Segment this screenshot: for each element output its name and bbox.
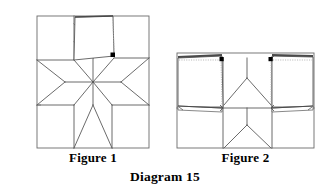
- fig2-pivot-dot-top-left: [220, 57, 224, 61]
- fig2-flap-top-left-face: [178, 56, 223, 107]
- fig2-lower-chevron-left: [224, 125, 247, 148]
- fig2-lower-chevron-right: [247, 125, 271, 148]
- fig2-pivot-dot-top-right: [269, 57, 273, 61]
- fig2-flap-top-right-crease: [272, 55, 313, 56]
- fig2-upper-chevron-left: [224, 78, 247, 105]
- fig2-flap-top-right: [271, 55, 313, 107]
- fig2-upper-chevron-right: [247, 78, 271, 105]
- diagram-canvas: Figure 1 Figure 2 Diagram 15: [0, 0, 330, 192]
- fig2-flap-top-left: [178, 55, 223, 107]
- figure-2-caption: Figure 2: [177, 150, 314, 166]
- diagram-title: Diagram 15: [0, 169, 330, 185]
- figure-1-caption: Figure 1: [37, 150, 149, 166]
- fig2-flap-top-right-face: [272, 56, 313, 107]
